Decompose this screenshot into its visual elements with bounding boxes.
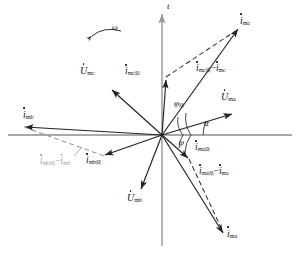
- label-i-mb: imb: [23, 110, 34, 121]
- axes-group: [8, 14, 292, 246]
- vector-i-mb-zero: [105, 135, 162, 155]
- label-i-mb-difference: imb|0|−imb: [40, 157, 70, 167]
- omega-label: ω: [112, 24, 118, 32]
- vector-i-mc: [162, 29, 238, 135]
- vector-u-ma: [162, 114, 232, 135]
- vector-i-ma: [162, 135, 223, 233]
- phasor-diagram-canvas: [0, 0, 299, 253]
- label-u-mb: Umb: [127, 193, 142, 204]
- phi-arc-b: [185, 135, 191, 153]
- label-i-mc: imc: [240, 16, 250, 27]
- label-i-mc-difference: imc|0|−imc: [196, 64, 226, 74]
- label-i-mb-zero: imb|0|: [86, 156, 101, 166]
- label-angle-alpha: α: [204, 119, 209, 128]
- phi-zero-arc-inner: [178, 117, 183, 135]
- phasor-diagram-figure: t ω imc imc|0| Umc Uma ima|0| ima imb im…: [0, 0, 299, 253]
- label-i-ma: ima: [227, 229, 237, 240]
- axis-label-vertical: t: [167, 2, 170, 11]
- label-u-ma: Uma: [221, 92, 236, 103]
- label-angle-phi-zero: φ|0|: [174, 99, 184, 109]
- vector-i-mb: [25, 127, 162, 135]
- i-mb-difference-leader-line: [74, 147, 82, 156]
- label-i-ma-zero: ima|0|: [195, 143, 210, 153]
- label-u-mc: Umc: [80, 66, 95, 77]
- label-i-mc-zero: imc|0|: [125, 67, 140, 77]
- vector-u-mb: [141, 135, 162, 189]
- label-i-ma-difference: ima|0|−ima: [199, 167, 229, 177]
- vector-u-mc: [112, 90, 162, 135]
- phi-zero-arc-outer: [186, 113, 191, 135]
- vector-i-ma-zero: [162, 135, 188, 158]
- label-angle-phi: φ: [179, 138, 184, 147]
